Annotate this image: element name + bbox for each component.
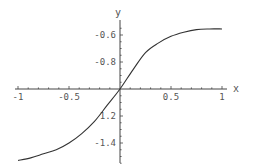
x-tick-label: -0.5 bbox=[58, 92, 80, 102]
axes: -1-0.50.51-0.6-0.81.2-1.4yx bbox=[13, 7, 239, 163]
y-tick-label: -0.6 bbox=[94, 30, 116, 40]
x-tick-label: -1 bbox=[13, 92, 24, 102]
y-tick-label: -1.4 bbox=[94, 138, 116, 148]
x-tick-label: 0.5 bbox=[163, 92, 179, 102]
y-axis-label: y bbox=[115, 7, 121, 18]
plot-area: -1-0.50.51-0.6-0.81.2-1.4yx bbox=[0, 0, 254, 168]
x-axis-label: x bbox=[233, 83, 239, 94]
x-tick-label: 1 bbox=[219, 92, 224, 102]
y-tick-label: -0.8 bbox=[94, 57, 116, 67]
